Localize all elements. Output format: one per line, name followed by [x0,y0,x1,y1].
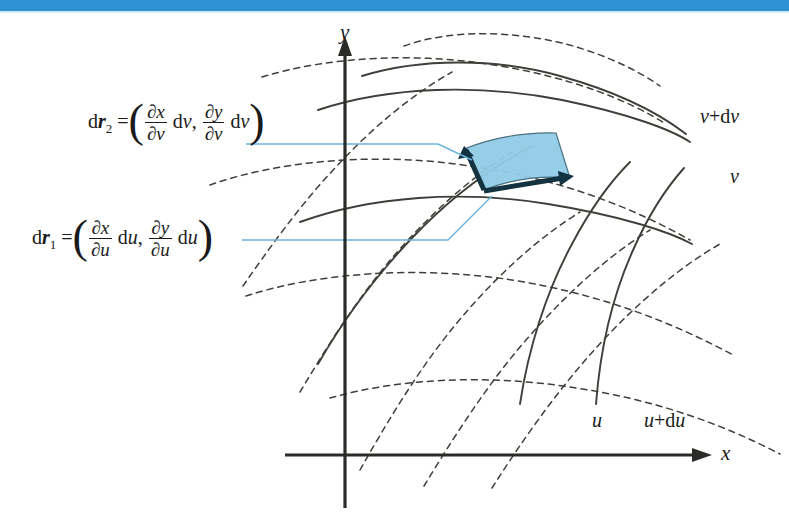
formula-dr2-equals: = [117,110,128,132]
curve-label-u-plus-du-tail: u [675,409,685,431]
x-axis-label: x [721,443,730,464]
v-arc [300,197,692,244]
coordinate-axes [285,46,702,508]
formula-dr2-fraction-2: ∂y∂v [203,102,225,143]
v-dashed-arc-5 [330,380,780,454]
formula-dr2-open-paren: ( [129,98,144,144]
curve-label-u-plus-du: u+du [644,410,685,430]
curve-label-u: u [592,410,602,430]
formula-dr2-term-1-suffix: dv [168,110,192,132]
curve-label-u-plus-du-op: +d [654,409,675,431]
curve-label-u-var: u [592,409,602,431]
formula-dr2-close-paren: ) [249,98,264,144]
formula-dr1-term-2-suffix: du [173,226,198,248]
dr2-leader-line [246,144,472,160]
figure-page: y x v+dv v u u+du dr2 =(∂x∂v dv, ∂y∂v dv… [0,0,789,522]
formula-dr2-subscript: 2 [106,121,113,136]
formula-dr1-d: d [32,226,42,248]
formula-dr1-fraction-2: ∂y∂u [149,218,172,259]
axis-arrowheads [338,36,712,462]
formula-dr1-subscript: 1 [50,237,57,252]
formula-dr1-du-1: u [128,226,138,248]
formula-dr1-term-1-suffix: du [113,226,138,248]
leader-lines [242,144,492,240]
y-axis-label: y [340,22,349,43]
formula-dr1-vector: r [42,226,50,248]
formula-dr2-denominator-1: ∂v [145,123,167,143]
formula-dr1-denominator-1: ∂u [89,239,112,259]
u-curve-u [520,162,630,404]
formula-dr2-vector: r [98,110,106,132]
curve-label-v-plus-dv: v+dv [700,106,739,126]
u-curve-2 [300,152,512,392]
curve-label-v-var: v [730,165,739,187]
formula-dr1-denominator-2: ∂u [149,239,172,259]
u-curve-u-plus-du [596,168,684,404]
v-plus-dv-arc [318,90,690,142]
constant-v-dashed-arcs [210,34,780,454]
dr1-leader-line [242,196,492,240]
formula-dr2-numerator-2: ∂y [203,102,225,123]
curve-label-v-plus-dv-tail: v [730,105,739,127]
formula-dr1-du-2: u [188,226,198,248]
formula-dr1-close-paren: ) [198,214,213,260]
formula-dr1-comma: , [138,226,148,248]
formula-dr2-term-2-suffix: dv [225,110,249,132]
formula-dr2: dr2 =(∂x∂v dv, ∂y∂v dv) [88,100,265,146]
curve-label-u-plus-du-var: u [644,409,654,431]
formula-dr2-fraction-1: ∂x∂v [145,102,167,143]
formula-dr1-open-paren: ( [73,214,88,260]
formula-dr1-numerator-2: ∂y [149,218,172,239]
x-axis-arrowhead [692,448,712,462]
v-plus-dv-arc-upper [362,63,686,135]
u-curve-3 [360,212,580,470]
u-curve-4 [424,230,650,486]
formula-dr2-numerator-1: ∂x [145,102,167,123]
formula-dr1-equals: = [61,226,72,248]
formula-dr1: dr1 =(∂x∂u du, ∂y∂u du) [32,216,213,262]
u-curve-1 [243,72,452,286]
curve-label-v-plus-dv-var: v [700,105,709,127]
curve-label-v: v [730,166,739,186]
formula-dr2-d: d [88,110,98,132]
formula-dr2-dv-2: v [240,110,249,132]
formula-dr2-comma: , [192,110,202,132]
curve-label-v-plus-dv-op: +d [709,105,730,127]
formula-dr2-dv-1: v [183,110,192,132]
formula-dr2-denominator-2: ∂v [203,123,225,143]
formula-dr1-fraction-1: ∂x∂u [89,218,112,259]
formula-dr1-numerator-1: ∂x [89,218,112,239]
